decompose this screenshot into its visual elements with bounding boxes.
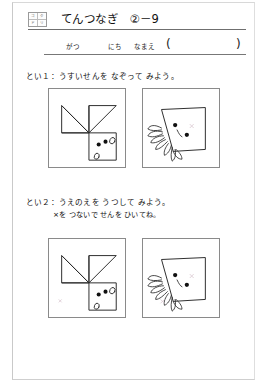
question-1-prompt: とい１：うすいせんを なぞって みよう。 [26,70,179,81]
eye-dot-left [173,123,177,127]
eye-dot-right [103,290,107,294]
logo-cell-3: ド [29,20,38,27]
eye-dot-right [103,140,107,144]
eye-dot-left [97,143,101,147]
worksheet-page: コ ク ド リ てんつなぎ ②－9 がつ にち なまえ ( ) とい１：うすいせ… [0,0,269,389]
worksheet-logo-badge: コ ク ド リ [28,12,47,27]
question-2-prompt: とい２：うえのえを うつして みよう。 [26,196,171,207]
title-underline [28,29,246,30]
squid-figure [143,89,219,167]
name-entry-row: がつ にち なまえ ( ) [44,38,246,56]
eye-dot-left [97,293,101,297]
question-2-subprompt: ×を つないで せんを ひいてね。 [53,209,160,219]
q2-figure-box-left [48,238,126,318]
q1-figure-box-left [48,88,126,168]
geometric-cat-figure [49,239,125,317]
squid-figure [143,239,219,317]
name-label: なまえ [134,41,155,51]
name-underline [44,54,246,55]
page-title: てんつなぎ ②－9 [61,10,159,26]
eye-dot-right [185,133,189,137]
logo-cell-4: リ [38,20,47,27]
geometric-cat-figure [49,89,125,167]
eye-dot-left [173,273,177,277]
eye-dot-right [185,283,189,287]
page-frame [12,2,255,380]
month-label: がつ [66,41,80,51]
day-label: にち [108,41,122,51]
q1-figure-box-right [142,88,220,168]
name-paren-close: ) [236,37,241,51]
name-paren-open: ( [166,37,171,51]
q2-figure-box-right [142,238,220,318]
